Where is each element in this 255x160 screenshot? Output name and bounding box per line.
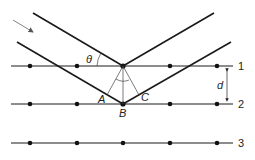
plane-1-label: 1	[238, 60, 244, 72]
inner-angle-arc	[116, 79, 129, 81]
perp-a	[107, 66, 123, 95]
theta-arc	[97, 53, 101, 66]
bragg-diagram: θ d A B C 1 2 3	[0, 0, 255, 160]
point-b-label: B	[119, 107, 126, 119]
d-label: d	[217, 79, 224, 91]
reflected-ray-upper	[123, 13, 214, 66]
point-c-label: C	[141, 91, 149, 103]
plane-3-label: 3	[238, 137, 244, 149]
perp-c	[123, 66, 139, 95]
incident-ray-upper	[33, 13, 123, 66]
rays	[17, 13, 231, 104]
point-a-label: A	[97, 93, 105, 105]
theta-label: θ	[86, 53, 92, 65]
incident-arrow-icon	[13, 20, 33, 32]
plane-2-label: 2	[238, 98, 244, 110]
